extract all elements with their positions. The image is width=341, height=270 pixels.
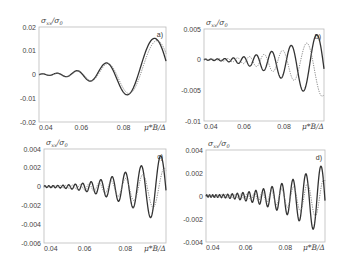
x-tick-label: 0.08 bbox=[279, 244, 293, 251]
y-tick-label: 0.004 bbox=[23, 146, 41, 153]
y-tick-label: -0.002 bbox=[21, 202, 41, 209]
x-tick-label: 0.08 bbox=[117, 124, 131, 131]
figure: 0.020.010-0.01-0.020.040.060.08μ*B/Δσxx/… bbox=[0, 0, 341, 270]
x-tick-label: 0.08 bbox=[277, 123, 291, 130]
y-tick-label: 0 bbox=[32, 71, 36, 78]
x-axis-label: μ*B/Δ bbox=[303, 243, 325, 252]
y-tick-label: 0.002 bbox=[185, 170, 203, 177]
x-tick-label: 0.06 bbox=[78, 245, 92, 252]
x-tick-label: 0.04 bbox=[204, 123, 218, 130]
panel-d: 0.0040.0020-0.002-0.0040.040.060.08μ*B/Δ… bbox=[183, 139, 325, 252]
x-tick-label: 0.04 bbox=[44, 245, 58, 252]
y-axis-label: σxx/σ0 bbox=[41, 16, 63, 26]
x-axis-label: μ*B/Δ bbox=[302, 122, 324, 131]
y-tick-label: 0 bbox=[197, 56, 201, 63]
y-tick-label: 0 bbox=[37, 183, 41, 190]
plot-frame bbox=[204, 29, 324, 121]
y-tick-label: -0.002 bbox=[183, 216, 203, 223]
solid-curve bbox=[206, 166, 325, 229]
y-tick-label: -0.004 bbox=[21, 221, 41, 228]
y-axis-label: σxx/σ0 bbox=[46, 138, 68, 148]
y-tick-label: -0.005 bbox=[181, 87, 201, 94]
x-tick-label: 0.06 bbox=[75, 124, 89, 131]
plot-frame bbox=[39, 27, 166, 122]
y-tick-label: 0.005 bbox=[183, 26, 201, 33]
panel-label: a) bbox=[157, 31, 163, 39]
y-tick-label: 0.01 bbox=[22, 47, 36, 54]
panel-c: 0.0040.0020-0.002-0.004-0.0060.040.060.0… bbox=[21, 138, 166, 253]
x-axis-label: μ*B/Δ bbox=[144, 123, 166, 132]
panel-b: 0.0050-0.005-0.010.040.060.08μ*B/Δσxx/σ0… bbox=[181, 18, 324, 131]
y-axis-label: σxx/σ0 bbox=[208, 139, 230, 149]
y-axis-label: σxx/σ0 bbox=[206, 18, 228, 28]
y-tick-label: -0.006 bbox=[21, 240, 41, 247]
solid-curve bbox=[39, 38, 166, 94]
x-tick-label: 0.04 bbox=[206, 244, 220, 251]
x-tick-label: 0.04 bbox=[39, 124, 53, 131]
x-tick-label: 0.06 bbox=[239, 244, 253, 251]
y-tick-label: -0.01 bbox=[20, 95, 36, 102]
solid-curve bbox=[204, 35, 324, 91]
panel-a: 0.020.010-0.01-0.020.040.060.08μ*B/Δσxx/… bbox=[20, 16, 166, 132]
y-tick-label: 0 bbox=[199, 193, 203, 200]
y-tick-label: -0.01 bbox=[185, 118, 201, 125]
panel-label: d) bbox=[316, 154, 322, 162]
solid-curve bbox=[44, 156, 166, 218]
x-axis-label: μ*B/Δ bbox=[144, 244, 166, 253]
y-tick-label: 0.02 bbox=[22, 24, 36, 31]
x-tick-label: 0.06 bbox=[237, 123, 251, 130]
y-tick-label: 0.004 bbox=[185, 147, 203, 154]
y-tick-label: 0.002 bbox=[23, 164, 41, 171]
y-tick-label: -0.004 bbox=[183, 239, 203, 246]
x-tick-label: 0.08 bbox=[119, 245, 133, 252]
y-tick-label: -0.02 bbox=[20, 119, 36, 126]
